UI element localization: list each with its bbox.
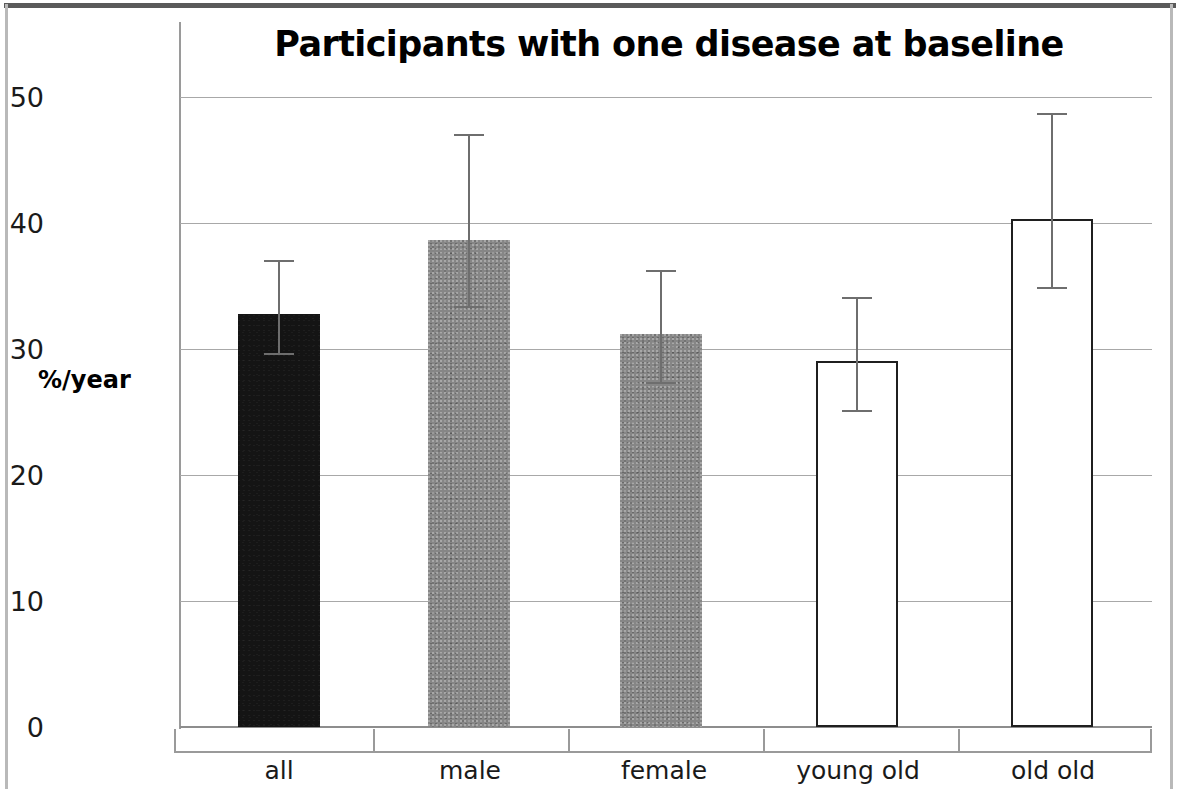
x-tick-3 xyxy=(763,729,765,753)
x-axis-line xyxy=(174,751,1152,753)
errorbar-old-old xyxy=(1011,113,1093,289)
errorbar-stem xyxy=(856,297,858,412)
errorbar-cap-upper xyxy=(842,297,872,299)
y-tick-label-20: 20 xyxy=(0,462,44,489)
chart-figure: Participants with one disease at baselin… xyxy=(0,0,1184,789)
plot-area xyxy=(180,97,1152,727)
errorbar-male xyxy=(428,134,510,308)
x-tick-2 xyxy=(568,729,570,753)
x-label-young-old: young old xyxy=(796,757,920,784)
errorbar-female xyxy=(620,270,702,384)
errorbar-cap-upper xyxy=(646,270,676,272)
y-tick-label-10: 10 xyxy=(0,588,44,615)
errorbar-stem xyxy=(468,134,470,308)
errorbar-cap-upper xyxy=(1037,113,1067,115)
errorbar-stem xyxy=(660,270,662,384)
x-tick-4 xyxy=(958,729,960,753)
bar-young-old xyxy=(816,361,898,727)
errorbar-cap-lower xyxy=(454,306,484,308)
page-border-left xyxy=(5,4,8,789)
errorbar-cap-lower xyxy=(264,353,294,355)
errorbar-cap-lower xyxy=(1037,287,1067,289)
errorbar-stem xyxy=(278,260,280,355)
errorbar-cap-upper xyxy=(264,260,294,262)
x-tick-5 xyxy=(1150,729,1152,753)
x-label-male: male xyxy=(439,757,501,784)
errorbar-cap-upper xyxy=(454,134,484,136)
page-title: Participants with one disease at baselin… xyxy=(186,22,1152,66)
gridline-50 xyxy=(180,97,1152,98)
y-tick-label-40: 40 xyxy=(0,210,44,237)
x-label-old-old: old old xyxy=(1011,757,1095,784)
bar-female xyxy=(620,334,702,727)
y-tick-label-0: 0 xyxy=(0,714,44,741)
x-label-female: female xyxy=(621,757,707,784)
y-tick-label-30: 30 xyxy=(0,336,44,363)
bar-all xyxy=(238,314,320,727)
errorbar-stem xyxy=(1051,113,1053,289)
y-axis-title: %/year xyxy=(38,368,131,392)
errorbar-young-old xyxy=(816,297,898,412)
page-border-top xyxy=(4,3,1176,8)
errorbar-cap-lower xyxy=(842,410,872,412)
errorbar-all xyxy=(238,260,320,355)
bar-male xyxy=(428,240,510,727)
page-border-right xyxy=(1170,4,1173,789)
errorbar-cap-lower xyxy=(646,382,676,384)
gridline-40 xyxy=(180,223,1152,224)
y-tick-label-50: 50 xyxy=(0,84,44,111)
x-tick-0 xyxy=(174,729,176,753)
x-tick-1 xyxy=(373,729,375,753)
bar-old-old xyxy=(1011,219,1093,727)
x-label-all: all xyxy=(264,757,293,784)
